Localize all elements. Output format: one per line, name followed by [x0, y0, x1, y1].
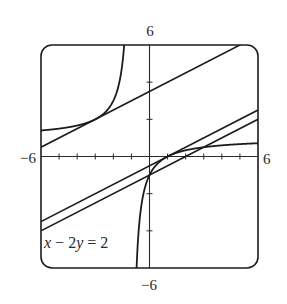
y-max-label: 6: [146, 23, 154, 39]
graph-window: 6 −6 −6 6 x − 2y = 2: [0, 0, 287, 304]
equation-text: = 2: [83, 234, 108, 251]
equation-label: x − 2y = 2: [43, 234, 108, 252]
x-max-label: 6: [263, 151, 271, 167]
x-min-label: −6: [20, 150, 36, 166]
y-min-label: −6: [141, 277, 157, 293]
equation-variable: x: [43, 234, 51, 251]
equation-text: − 2: [51, 234, 76, 251]
curve-left-branch: [41, 8, 131, 131]
